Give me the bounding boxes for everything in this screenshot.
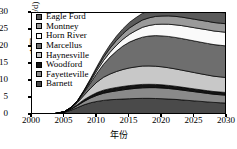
legend-item-label: Woodford [46,60,82,69]
legend-item-marcellus[interactable]: Marcellus [36,41,89,51]
y-tick-label: 0 [0,109,8,118]
x-tick-label: 2025 [177,116,211,125]
x-tick-label: 2020 [144,116,178,125]
x-tick-mark [95,114,96,117]
legend-swatch-icon [36,43,42,49]
legend-item-label: Eagle Ford [46,12,86,21]
x-tick-label: 2000 [14,116,48,125]
y-tick-label: 20 [0,41,8,50]
y-tick-label: 30 [0,7,8,16]
legend-swatch-icon [36,52,42,58]
chart-figure: 产量/(10⁸ft³/d) 051015202530 2000200520102… [0,0,237,149]
legend-item-barnett[interactable]: Barnett [36,79,89,89]
legend-swatch-icon [36,23,42,29]
legend-swatch-icon [36,81,42,87]
legend-swatch-icon [36,62,42,68]
y-tick-label: 25 [0,24,8,33]
x-axis-label: 年份 [0,128,237,141]
x-tick-label: 2030 [209,116,237,125]
x-tick-mark [160,114,161,117]
legend-swatch-icon [36,14,42,20]
x-tick-mark [225,114,226,117]
y-tick-label: 10 [0,75,8,84]
x-tick-mark [193,114,194,117]
legend-swatch-icon [36,33,42,39]
x-tick-mark [30,114,31,117]
legend-swatch-icon [36,71,42,77]
y-tick-label: 15 [0,58,8,67]
legend-item-label: Marcellus [46,41,82,50]
y-tick-label: 5 [0,92,8,101]
x-tick-mark [63,114,64,117]
x-tick-label: 2010 [79,116,113,125]
legend-item-label: Barnett [46,79,73,88]
x-tick-label: 2005 [47,116,81,125]
x-tick-mark [128,114,129,117]
x-tick-label: 2015 [112,116,146,125]
chart-legend: Eagle FordMontneyHorn RiverMarcellusHayn… [36,12,89,89]
